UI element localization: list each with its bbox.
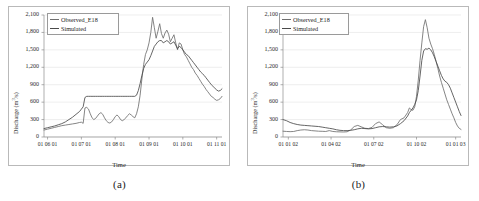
legend-label-observed: Observed_E18	[61, 15, 98, 24]
panel-a: Discharge (m3/s) Time Observed_E18 Simul…	[0, 0, 239, 201]
y-tick-label: 600	[8, 98, 39, 104]
x-tick-label: 01 07 02	[354, 141, 394, 147]
y-tick-label: 300	[247, 116, 278, 122]
y-tick-label: 300	[8, 116, 39, 122]
y-tick-label: 1,800	[8, 28, 39, 34]
y-tick-label: 1,800	[247, 28, 278, 34]
y-tick-label: 1,500	[8, 46, 39, 52]
y-tick-label: 600	[247, 98, 278, 104]
y-tick-label: 2,100	[247, 11, 278, 17]
series-line-observed	[283, 20, 461, 132]
panel-b-legend: Observed_E18 Simulated	[279, 13, 349, 35]
y-tick-label: 1,500	[247, 46, 278, 52]
panel-a-caption: (a)	[0, 178, 239, 190]
legend-item-observed: Observed_E18	[50, 15, 115, 24]
legend-label-simulated: Simulated	[61, 24, 86, 33]
y-tick-label: 900	[247, 81, 278, 87]
legend-swatch-observed	[50, 19, 59, 20]
legend-swatch-simulated	[282, 28, 291, 29]
panel-b-xlabel: Time	[247, 161, 469, 168]
y-tick-label: 1,200	[247, 63, 278, 69]
panel-b: Discharge (m3/s) Time Observed_E18 Simul…	[239, 0, 478, 201]
y-tick-label: 1,200	[8, 63, 39, 69]
legend-swatch-observed	[282, 19, 291, 20]
x-tick-label: 01 01 03	[436, 141, 476, 147]
y-tick-label: 2,100	[8, 11, 39, 17]
x-tick-label: 01 01 02	[268, 141, 308, 147]
legend-label-observed: Observed_E18	[293, 15, 330, 24]
y-tick-label: 0	[247, 133, 278, 139]
x-tick-label: 01 10 02	[397, 141, 437, 147]
legend-label-simulated: Simulated	[293, 24, 318, 33]
panel-a-legend: Observed_E18 Simulated	[47, 13, 119, 35]
y-tick-label: 0	[8, 133, 39, 139]
panel-a-xlabel: Time	[8, 161, 230, 168]
legend-item-observed: Observed_E18	[282, 15, 345, 24]
legend-item-simulated: Simulated	[50, 24, 115, 33]
y-tick-label: 900	[8, 81, 39, 87]
x-tick-label: 01 11 01	[197, 141, 237, 147]
figure-container: Discharge (m3/s) Time Observed_E18 Simul…	[0, 0, 479, 201]
legend-item-simulated: Simulated	[282, 24, 345, 33]
series-line-simulated	[283, 48, 461, 130]
panel-b-caption: (b)	[239, 178, 478, 190]
x-tick-label: 01 04 02	[311, 141, 351, 147]
legend-swatch-simulated	[50, 28, 59, 29]
